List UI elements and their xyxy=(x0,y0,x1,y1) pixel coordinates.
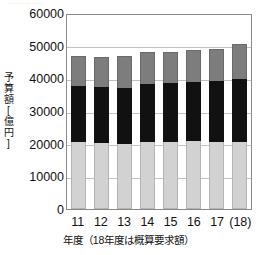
bar-segment-2 xyxy=(163,83,178,142)
bar-segment-3 xyxy=(163,52,178,83)
bar-segment-3 xyxy=(117,56,132,88)
bar-segment-3 xyxy=(140,52,155,84)
bar-segment-1 xyxy=(232,142,247,209)
bar-segment-1 xyxy=(209,142,224,209)
bar-segment-1 xyxy=(140,142,155,209)
x-tick-label: (18) xyxy=(229,215,252,229)
bar-16[interactable] xyxy=(186,50,201,209)
bar-segment-3 xyxy=(186,50,201,82)
y-tick-label: 60000 xyxy=(4,8,64,20)
bar-segment-1 xyxy=(117,144,132,209)
x-axis-ticks: 11121314151617(18) xyxy=(66,213,252,231)
bar-13[interactable] xyxy=(117,56,132,209)
y-tick-label: 20000 xyxy=(4,139,64,151)
y-tick-label: 0 xyxy=(4,204,64,216)
bar-17[interactable] xyxy=(209,49,224,209)
bar-chart: ............ 予 算 額 [ 億 円 ] 60000 50000 4… xyxy=(0,0,257,255)
x-tick-label: 17 xyxy=(206,215,229,229)
x-tick-label: 11 xyxy=(66,215,89,229)
bar-segment-2 xyxy=(71,86,86,142)
x-tick-label: 15 xyxy=(159,215,182,229)
plot-area xyxy=(66,14,252,210)
bar-segment-2 xyxy=(232,79,247,142)
bar-segment-1 xyxy=(71,142,86,209)
bar-14[interactable] xyxy=(140,52,155,209)
bar-segment-3 xyxy=(94,57,109,87)
x-tick-label: 12 xyxy=(89,215,112,229)
bar-segment-1 xyxy=(163,142,178,209)
y-tick-label: 10000 xyxy=(4,171,64,183)
y-axis-ticks: 60000 50000 40000 30000 20000 10000 0 xyxy=(0,0,64,255)
y-tick-label: 30000 xyxy=(4,106,64,118)
bar-segment-3 xyxy=(232,44,247,79)
bar-segment-2 xyxy=(186,82,201,141)
x-tick-label: 16 xyxy=(182,215,205,229)
bar-18[interactable] xyxy=(232,44,247,209)
x-axis-title: 年度（18年度は概算要求額） xyxy=(0,233,257,247)
bar-11[interactable] xyxy=(71,56,86,209)
bar-segment-2 xyxy=(140,84,155,142)
bar-segment-1 xyxy=(94,143,109,209)
y-tick-label: 40000 xyxy=(4,73,64,85)
bar-15[interactable] xyxy=(163,52,178,209)
bar-segment-3 xyxy=(71,56,86,86)
x-tick-label: 14 xyxy=(136,215,159,229)
bar-segment-1 xyxy=(186,141,201,209)
bar-segment-2 xyxy=(117,88,132,144)
bar-12[interactable] xyxy=(94,57,109,209)
y-tick-label: 50000 xyxy=(4,41,64,53)
x-tick-label: 13 xyxy=(113,215,136,229)
bar-segment-2 xyxy=(94,87,109,143)
bar-segment-2 xyxy=(209,81,224,142)
bar-segment-3 xyxy=(209,49,224,81)
bar-series-container xyxy=(67,15,251,209)
